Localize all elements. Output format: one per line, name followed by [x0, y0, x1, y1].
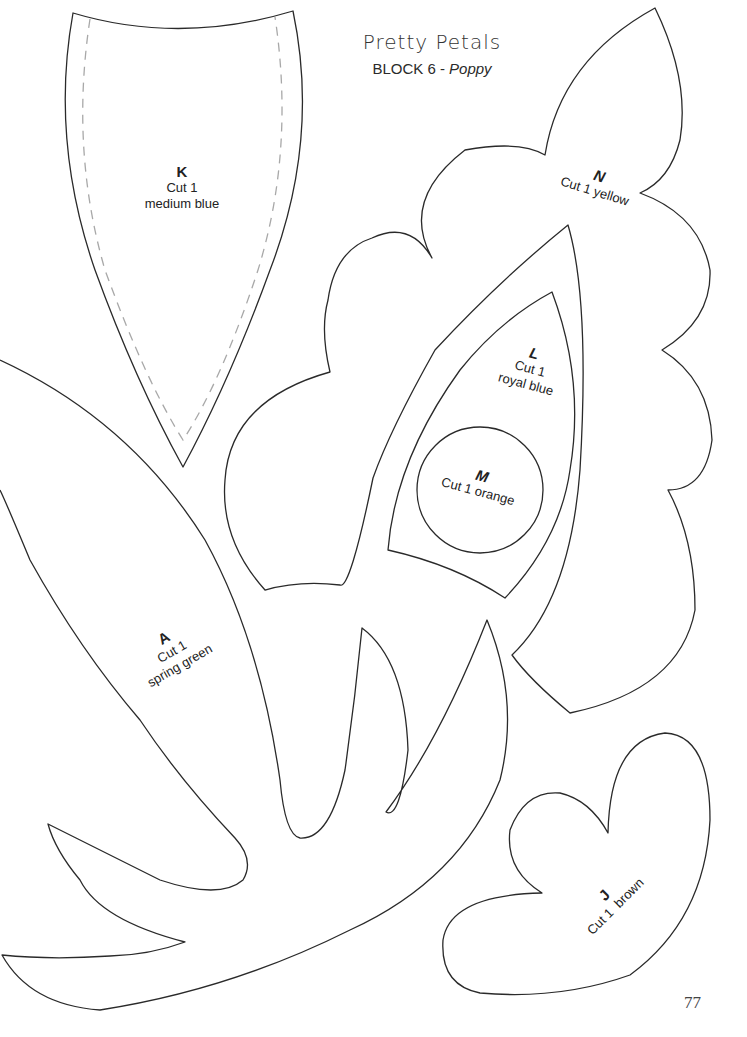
- piece-k-shape: [65, 11, 302, 467]
- block-subtitle: BLOCK 6 - Poppy: [352, 60, 512, 77]
- piece-k-color: medium blue: [132, 196, 232, 212]
- piece-j-shape: [443, 733, 710, 995]
- block-number: BLOCK 6 -: [372, 60, 449, 77]
- block-name: Poppy: [449, 60, 492, 77]
- piece-l-shape: [388, 292, 575, 598]
- piece-a-shape: [0, 360, 508, 1010]
- piece-k-letter: K: [132, 164, 232, 180]
- page-title: Pretty Petals: [352, 30, 512, 54]
- pattern-page: Pretty Petals BLOCK 6 - Poppy K Cut 1 me…: [0, 0, 747, 1037]
- page-number: 77: [684, 993, 701, 1013]
- piece-k-label: K Cut 1 medium blue: [132, 164, 232, 212]
- piece-k-cut: Cut 1: [132, 180, 232, 196]
